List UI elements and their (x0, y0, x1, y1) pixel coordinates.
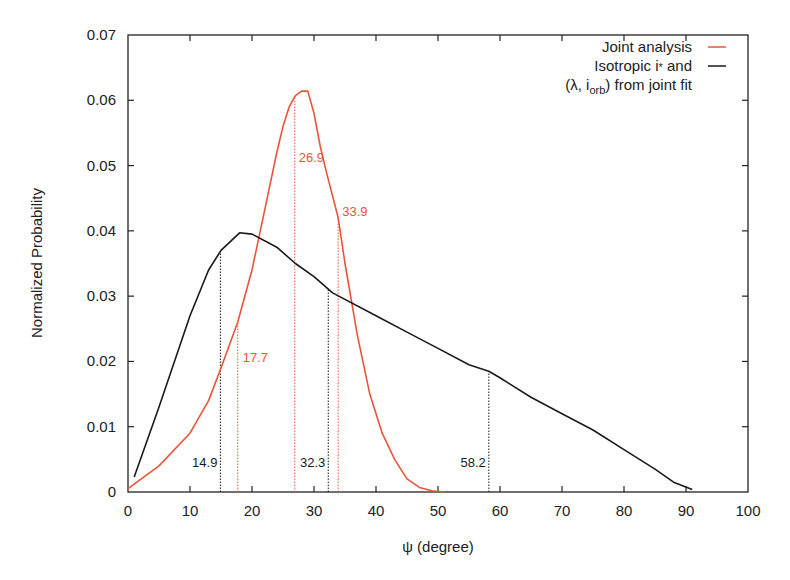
legend: Joint analysis Isotropic i* and (λ, iorb… (565, 38, 726, 96)
x-tick-label: 100 (735, 502, 760, 519)
axis-ticks: 010203040506070809010000.010.020.030.040… (87, 26, 761, 519)
legend-label-joint-analysis: Joint analysis (602, 38, 692, 55)
y-tick-label: 0 (108, 483, 116, 500)
annotation-label: 17.7 (243, 350, 268, 365)
curve-joint-analysis (128, 91, 444, 492)
x-axis-title: ψ (degree) (402, 538, 474, 555)
x-tick-label: 20 (244, 502, 261, 519)
y-tick-label: 0.01 (87, 418, 116, 435)
annotation-label: 14.9 (192, 455, 217, 470)
y-axis-title: Normalized Probability (28, 187, 45, 338)
annotation-labels: 17.726.933.914.932.358.2 (192, 150, 486, 470)
x-tick-label: 60 (492, 502, 509, 519)
x-tick-label: 70 (554, 502, 571, 519)
y-tick-label: 0.02 (87, 352, 116, 369)
x-tick-label: 0 (124, 502, 132, 519)
annotation-label: 58.2 (461, 455, 486, 470)
x-tick-label: 10 (182, 502, 199, 519)
annotation-label: 32.3 (300, 455, 325, 470)
x-tick-label: 90 (678, 502, 695, 519)
curve-isotropic (134, 233, 692, 490)
y-tick-label: 0.05 (87, 157, 116, 174)
annotation-label: 26.9 (299, 150, 324, 165)
credible-interval-markers (220, 97, 488, 492)
y-tick-label: 0.07 (87, 26, 116, 43)
x-tick-label: 40 (368, 502, 385, 519)
y-tick-label: 0.03 (87, 287, 116, 304)
legend-label-isotropic: Isotropic i* and (594, 57, 692, 74)
plot-border (128, 35, 748, 492)
x-tick-label: 30 (306, 502, 323, 519)
y-tick-label: 0.06 (87, 91, 116, 108)
plot-frame (128, 35, 748, 492)
legend-label-isotropic-line2: (λ, iorb) from joint fit (565, 76, 693, 96)
chart: 010203040506070809010000.010.020.030.040… (0, 0, 790, 580)
y-tick-label: 0.04 (87, 222, 116, 239)
curves (128, 91, 692, 492)
annotation-label: 33.9 (342, 204, 367, 219)
x-tick-label: 50 (430, 502, 447, 519)
x-tick-label: 80 (616, 502, 633, 519)
